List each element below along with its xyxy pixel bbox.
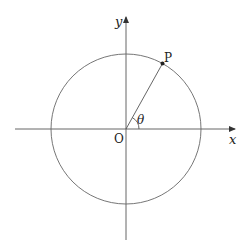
angle-theta-label: θ	[137, 113, 145, 127]
origin-label: O	[114, 132, 124, 146]
radius-op	[126, 64, 163, 130]
point-p-label: P	[164, 51, 172, 65]
unit-circle-diagram: y x O P θ	[0, 0, 252, 250]
y-axis-label: y	[114, 14, 123, 29]
x-axis-label: x	[229, 132, 237, 147]
